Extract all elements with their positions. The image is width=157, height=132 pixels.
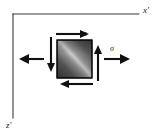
normal-arrow-left	[19, 54, 44, 64]
shear-arrow-bottom-head	[60, 80, 69, 88]
z-prime-axis-label: z′	[5, 120, 13, 130]
stress-element-figure: x′ z′	[0, 0, 157, 132]
shear-arrow-left	[47, 37, 55, 72]
sigma-label: σ	[110, 44, 115, 53]
shear-arrow-left-head	[47, 63, 55, 72]
x-prime-axis-label: x′	[142, 5, 150, 15]
shear-arrow-right	[94, 45, 102, 81]
normal-arrow-left-head	[19, 54, 29, 64]
normal-arrow-right	[104, 54, 130, 64]
shear-arrow-right-head	[94, 45, 102, 54]
stress-element-square	[57, 40, 92, 78]
stress-element-square-shadow	[57, 40, 92, 78]
figure-canvas: x′ z′	[0, 0, 157, 132]
shear-arrow-bottom	[60, 80, 93, 88]
normal-arrow-right-head	[120, 54, 130, 64]
